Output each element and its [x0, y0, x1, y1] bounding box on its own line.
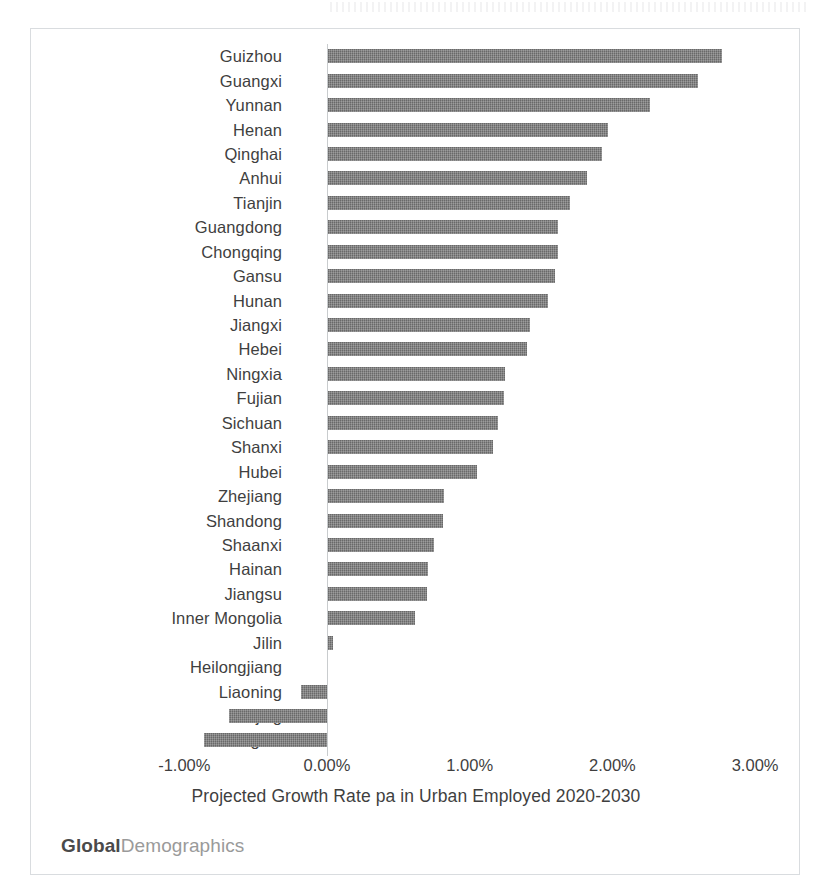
brand-secondary-text: Demographics — [121, 835, 245, 856]
bar — [327, 171, 587, 185]
bar-track — [31, 93, 801, 117]
bar-track — [31, 679, 801, 703]
bar-track — [31, 386, 801, 410]
bar-row: Hainan — [31, 557, 801, 581]
bar — [327, 367, 505, 381]
bar — [327, 587, 427, 601]
plot-area: GuizhouGuangxiYunnanHenanQinghaiAnhuiTia… — [31, 44, 801, 754]
brand-primary-text: Global — [61, 835, 121, 856]
bar-row: Chongqing — [31, 240, 801, 264]
bar-track — [31, 508, 801, 532]
x-tick-label: 1.00% — [446, 756, 493, 775]
bar-track — [31, 631, 801, 655]
bar-row: Shanxi — [31, 435, 801, 459]
bar-row: Shandong — [31, 508, 801, 532]
x-tick-label: 3.00% — [732, 756, 779, 775]
bar — [327, 391, 504, 405]
bar-track — [31, 337, 801, 361]
bar-row: Hebei — [31, 337, 801, 361]
bar-row: Liaoning — [31, 679, 801, 703]
bar-track — [31, 655, 801, 679]
x-tick-label: 2.00% — [589, 756, 636, 775]
bar-row: Ningxia — [31, 362, 801, 386]
bar — [327, 123, 608, 137]
bar — [327, 220, 558, 234]
bar-track — [31, 362, 801, 386]
bar — [327, 74, 698, 88]
bar-track — [31, 288, 801, 312]
bar — [327, 538, 434, 552]
bar-row: Inner Mongolia — [31, 606, 801, 630]
bar — [229, 709, 327, 723]
bar-row: Qinghai — [31, 142, 801, 166]
bar — [327, 611, 415, 625]
bar-track — [31, 411, 801, 435]
bar — [327, 318, 530, 332]
chart-frame: GuizhouGuangxiYunnanHenanQinghaiAnhuiTia… — [30, 28, 800, 875]
bar-row: Tianjin — [31, 191, 801, 215]
bar — [327, 196, 570, 210]
x-axis-tick-labels: -1.00%0.00%1.00%2.00%3.00% — [31, 756, 801, 782]
bar-track — [31, 557, 801, 581]
bar — [327, 440, 493, 454]
x-tick-label: 0.00% — [304, 756, 351, 775]
bar-row: Yunnan — [31, 93, 801, 117]
bar-track — [31, 44, 801, 68]
bar-row: Zhejiang — [31, 484, 801, 508]
bar-track — [31, 215, 801, 239]
bar-track — [31, 142, 801, 166]
bar-row: Hunan — [31, 288, 801, 312]
x-axis-title: Projected Growth Rate pa in Urban Employ… — [31, 786, 801, 807]
bar-track — [31, 166, 801, 190]
bar-track — [31, 435, 801, 459]
bar-track — [31, 582, 801, 606]
bar-track — [31, 728, 801, 752]
bar-row: Sichuan — [31, 411, 801, 435]
bar-row: Hubei — [31, 459, 801, 483]
bar — [327, 562, 428, 576]
bar — [327, 416, 498, 430]
bar-row: Shaanxi — [31, 533, 801, 557]
bar-row: Heilongjiang — [31, 655, 801, 679]
bar-track — [31, 704, 801, 728]
bar — [327, 465, 477, 479]
brand-logo: GlobalDemographics — [61, 835, 244, 857]
bar-row: Fujian — [31, 386, 801, 410]
bar-row: Henan — [31, 117, 801, 141]
bar-row: Guizhou — [31, 44, 801, 68]
bar-row: Beijing — [31, 704, 801, 728]
bar — [301, 685, 327, 699]
zero-axis-line — [327, 44, 328, 756]
bar-track — [31, 533, 801, 557]
bar-track — [31, 606, 801, 630]
bar — [327, 342, 527, 356]
bar — [204, 733, 327, 747]
bar — [327, 294, 548, 308]
bar — [327, 49, 722, 63]
bar-row: Guangxi — [31, 68, 801, 92]
bar-row: Guangdong — [31, 215, 801, 239]
bar-row: Jiangsu — [31, 582, 801, 606]
bar-track — [31, 191, 801, 215]
bar-row: Jilin — [31, 631, 801, 655]
bar-track — [31, 459, 801, 483]
bar-track — [31, 313, 801, 337]
bar — [327, 489, 444, 503]
bar — [327, 98, 650, 112]
bar-row: Anhui — [31, 166, 801, 190]
bar-track — [31, 117, 801, 141]
bar-row: Shanghai — [31, 728, 801, 752]
bar — [327, 514, 443, 528]
bar-row: Jiangxi — [31, 313, 801, 337]
bar-track — [31, 484, 801, 508]
bar — [327, 269, 555, 283]
bar — [327, 147, 602, 161]
scan-artifact — [330, 2, 810, 12]
bar-row: Gansu — [31, 264, 801, 288]
bar-track — [31, 68, 801, 92]
bar-track — [31, 240, 801, 264]
bar — [327, 245, 558, 259]
x-tick-label: -1.00% — [158, 756, 210, 775]
bar-track — [31, 264, 801, 288]
